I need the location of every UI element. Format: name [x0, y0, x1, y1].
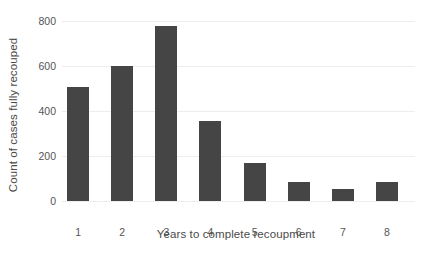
bar: [67, 87, 89, 201]
plot-area: 0200400600800 12345678: [62, 21, 415, 201]
bar: [199, 121, 221, 201]
y-tick-label: 800: [38, 15, 56, 27]
y-axis-title: Count of cases fully recouped: [2, 10, 24, 220]
bar: [155, 26, 177, 201]
bars-layer: [62, 21, 415, 201]
bar: [376, 182, 398, 201]
bar: [288, 182, 310, 201]
x-axis-title: Years to complete recoupment: [56, 228, 416, 240]
y-tick-label: 0: [50, 195, 56, 207]
bar: [244, 163, 266, 201]
y-tick-label: 600: [38, 60, 56, 72]
bar: [111, 66, 133, 201]
bar-chart: Count of cases fully recouped 0200400600…: [0, 0, 432, 254]
y-tick-label: 200: [38, 150, 56, 162]
y-tick-label: 400: [38, 105, 56, 117]
bar: [332, 189, 354, 201]
gridline: [62, 201, 415, 202]
